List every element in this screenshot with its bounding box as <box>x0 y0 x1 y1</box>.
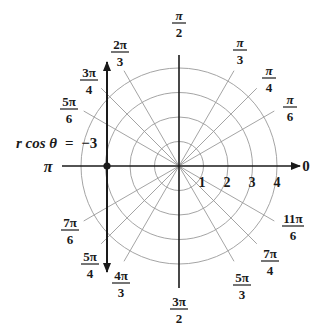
svg-text:π: π <box>265 63 273 78</box>
equation-label: r cos θ = −3 <box>16 135 97 151</box>
svg-text:3: 3 <box>237 52 244 67</box>
intersection-point <box>103 162 110 169</box>
svg-text:6: 6 <box>287 109 294 124</box>
angle-label-4pi-3: 4π 3 <box>112 268 130 300</box>
radial-line-45 <box>179 88 257 166</box>
svg-text:6: 6 <box>66 111 73 126</box>
svg-text:6: 6 <box>67 232 74 247</box>
radial-label-4: 4 <box>274 175 281 190</box>
svg-text:7π: 7π <box>63 215 77 230</box>
svg-text:4: 4 <box>86 82 93 97</box>
radial-line-135 <box>101 88 179 166</box>
svg-text:5π: 5π <box>62 94 76 109</box>
svg-text:4: 4 <box>267 263 274 278</box>
svg-text:4: 4 <box>266 80 273 95</box>
radial-labels: 1 2 3 4 <box>199 175 281 190</box>
angle-label-3pi-4: 3π 4 <box>80 65 98 97</box>
polar-diagram: 1 2 3 4 0 π π 6 π 4 π 3 π 2 <box>0 0 316 335</box>
svg-text:3π: 3π <box>82 65 96 80</box>
radial-label-3: 3 <box>249 175 256 190</box>
radial-label-1: 1 <box>199 175 206 190</box>
svg-text:2: 2 <box>176 311 183 326</box>
svg-text:3: 3 <box>239 287 246 302</box>
svg-text:11π: 11π <box>283 211 302 226</box>
radial-label-2: 2 <box>224 175 231 190</box>
radial-line-315 <box>179 166 257 244</box>
angle-label-pi-4: π 4 <box>262 63 276 95</box>
svg-text:2π: 2π <box>113 37 127 52</box>
svg-text:5π: 5π <box>235 270 249 285</box>
svg-text:4π: 4π <box>114 268 128 283</box>
svg-text:π: π <box>286 92 294 107</box>
angle-label-5pi-3: 5π 3 <box>233 270 251 302</box>
angle-label-5pi-4: 5π 4 <box>81 249 99 281</box>
svg-text:6: 6 <box>290 228 297 243</box>
svg-text:5π: 5π <box>83 249 97 264</box>
angle-label-3pi-2: 3π 2 <box>170 294 188 326</box>
svg-text:3π: 3π <box>172 294 186 309</box>
radial-line-225 <box>101 166 179 244</box>
angle-label-pi-2: π 2 <box>172 8 186 40</box>
angle-label-7pi-4: 7π 4 <box>261 246 279 278</box>
angle-label-11pi-6: 11π 6 <box>282 211 304 243</box>
svg-text:π: π <box>175 8 183 23</box>
angle-label-2pi-3: 2π 3 <box>111 37 129 69</box>
svg-text:7π: 7π <box>263 246 277 261</box>
svg-text:π: π <box>236 35 244 50</box>
svg-text:3: 3 <box>118 285 125 300</box>
angle-label-pi: π <box>44 158 54 175</box>
angle-label-pi-6: π 6 <box>283 92 297 124</box>
angle-label-5pi-6: 5π 6 <box>60 94 78 126</box>
svg-text:4: 4 <box>87 266 94 281</box>
svg-text:3: 3 <box>117 54 124 69</box>
svg-text:2: 2 <box>176 25 183 40</box>
angle-label-pi-3: π 3 <box>233 35 247 67</box>
angle-label-0: 0 <box>302 158 310 174</box>
angle-label-7pi-6: 7π 6 <box>61 215 79 247</box>
